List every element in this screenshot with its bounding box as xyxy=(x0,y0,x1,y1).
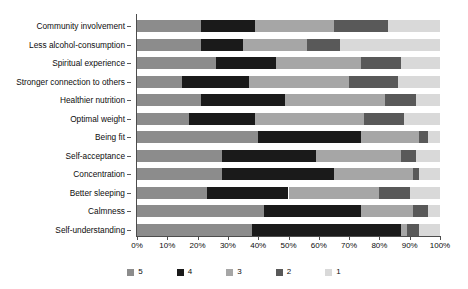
bar-segment-4 xyxy=(216,57,277,69)
bar-row xyxy=(137,150,440,162)
category-label: Less alcohol-consumption xyxy=(29,36,125,54)
bar-segment-1 xyxy=(419,224,440,236)
x-tick-mark xyxy=(440,236,441,240)
bar-segment-4 xyxy=(222,168,334,180)
bar-row xyxy=(137,187,440,199)
bar-segment-5 xyxy=(137,94,201,106)
bar-segment-4 xyxy=(207,187,289,199)
x-tick-mark xyxy=(289,236,290,240)
x-tick-label: 90% xyxy=(402,241,418,250)
category-tick xyxy=(127,45,131,46)
legend-item[interactable]: 3 xyxy=(226,268,241,276)
x-tick-mark xyxy=(349,236,350,240)
bar-segment-1 xyxy=(401,57,440,69)
legend-label: 4 xyxy=(188,268,192,276)
legend-swatch-icon xyxy=(276,269,283,276)
bar-row xyxy=(137,168,440,180)
category-tick xyxy=(127,26,131,27)
category-tick xyxy=(127,230,131,231)
legend-label: 1 xyxy=(336,268,340,276)
legend-item[interactable]: 4 xyxy=(177,268,192,276)
stacked-bar-chart: Community involvementLess alcohol-consum… xyxy=(0,0,468,289)
bar-segment-3 xyxy=(361,131,419,143)
bar-row xyxy=(137,224,440,236)
category-label: Optimal weight xyxy=(70,110,125,128)
bar-segment-2 xyxy=(385,94,415,106)
bar-segment-1 xyxy=(388,20,440,32)
bar-segment-2 xyxy=(407,224,419,236)
bar-segment-3 xyxy=(243,39,307,51)
x-tick-mark xyxy=(319,236,320,240)
bar-segment-5 xyxy=(137,113,189,125)
category-label: Concentration xyxy=(73,165,125,183)
bar-segment-5 xyxy=(137,76,182,88)
bar-segment-4 xyxy=(189,113,256,125)
category-tick xyxy=(127,100,131,101)
bar-segment-2 xyxy=(307,39,340,51)
legend-label: 3 xyxy=(237,268,241,276)
bar-segment-2 xyxy=(349,76,397,88)
bar-segment-2 xyxy=(334,20,389,32)
bar-segment-5 xyxy=(137,205,264,217)
category-tick xyxy=(127,82,131,83)
x-tick-label: 20% xyxy=(190,241,206,250)
category-label: Stronger connection to others xyxy=(16,73,125,91)
legend-item[interactable]: 1 xyxy=(325,268,340,276)
chart-legend: 54321 xyxy=(0,264,468,280)
bar-segment-2 xyxy=(364,113,403,125)
category-tick xyxy=(127,193,131,194)
bar-segment-3 xyxy=(316,150,401,162)
category-axis: Community involvementLess alcohol-consum… xyxy=(0,14,131,236)
bar-row xyxy=(137,131,440,143)
bar-segment-4 xyxy=(201,94,286,106)
category-label: Self-understanding xyxy=(55,221,125,239)
x-tick-label: 50% xyxy=(280,241,296,250)
bar-segment-2 xyxy=(379,187,409,199)
legend-item[interactable]: 5 xyxy=(127,268,142,276)
x-tick-mark xyxy=(410,236,411,240)
legend-item[interactable]: 2 xyxy=(276,268,291,276)
category-label: Community involvement xyxy=(36,17,125,35)
bar-segment-3 xyxy=(334,168,413,180)
bar-segment-2 xyxy=(361,57,400,69)
x-tick-label: 0% xyxy=(131,241,143,250)
bar-segment-3 xyxy=(255,20,334,32)
bar-segment-1 xyxy=(398,76,440,88)
bar-row xyxy=(137,57,440,69)
bar-segment-5 xyxy=(137,57,216,69)
legend-label: 2 xyxy=(287,268,291,276)
bar-segment-3 xyxy=(276,57,361,69)
bar-segment-5 xyxy=(137,187,207,199)
legend-swatch-icon xyxy=(127,269,134,276)
x-tick-label: 60% xyxy=(311,241,327,250)
x-tick-label: 70% xyxy=(341,241,357,250)
bar-segment-4 xyxy=(252,224,400,236)
category-tick xyxy=(127,156,131,157)
bar-segment-2 xyxy=(419,131,428,143)
bar-segment-4 xyxy=(264,205,361,217)
bar-segment-1 xyxy=(419,168,440,180)
bar-row xyxy=(137,20,440,32)
bar-segment-1 xyxy=(416,150,440,162)
category-label: Self-acceptance xyxy=(66,147,126,165)
x-tick-mark xyxy=(137,236,138,240)
bar-segment-5 xyxy=(137,224,252,236)
bar-segment-3 xyxy=(289,187,380,199)
legend-swatch-icon xyxy=(226,269,233,276)
category-tick xyxy=(127,119,131,120)
legend-swatch-icon xyxy=(325,269,332,276)
legend-swatch-icon xyxy=(177,269,184,276)
bar-row xyxy=(137,205,440,217)
category-tick xyxy=(127,137,131,138)
plot-area xyxy=(137,14,440,236)
category-label: Being fit xyxy=(95,128,125,146)
bar-segment-5 xyxy=(137,150,222,162)
bar-segment-4 xyxy=(222,150,316,162)
x-tick-mark xyxy=(228,236,229,240)
x-tick-mark xyxy=(167,236,168,240)
bar-segment-1 xyxy=(404,113,440,125)
bar-segment-4 xyxy=(258,131,361,143)
bar-segment-3 xyxy=(361,205,413,217)
x-tick-label: 30% xyxy=(220,241,236,250)
bar-segment-4 xyxy=(182,76,249,88)
